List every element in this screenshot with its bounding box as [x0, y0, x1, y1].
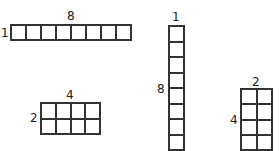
- array-8x1-row-label: 8: [157, 83, 165, 95]
- unit-square: [26, 25, 41, 40]
- unit-square: [169, 119, 184, 135]
- unit-square: [257, 89, 273, 104]
- unit-square: [241, 120, 257, 135]
- unit-square: [169, 26, 184, 42]
- unit-square: [116, 25, 131, 40]
- unit-square: [71, 103, 86, 119]
- unit-square: [71, 119, 86, 135]
- unit-square: [241, 89, 257, 104]
- array-2x4-col-label: 4: [66, 89, 74, 101]
- array-2x4-row-label: 2: [30, 112, 38, 124]
- unit-square: [56, 103, 71, 119]
- unit-square: [41, 119, 56, 135]
- unit-square: [11, 25, 26, 40]
- unit-square: [41, 103, 56, 119]
- unit-square: [56, 119, 71, 135]
- array-1x8-col-label: 8: [67, 10, 75, 22]
- unit-square: [241, 104, 257, 119]
- array-8x1: [168, 25, 185, 151]
- unit-square: [169, 104, 184, 120]
- unit-square: [169, 73, 184, 89]
- unit-square: [56, 25, 71, 40]
- array-8x1-col-label: 1: [172, 11, 180, 23]
- array-4x2-row-label: 4: [230, 114, 238, 126]
- unit-square: [257, 104, 273, 119]
- unit-square: [101, 25, 116, 40]
- unit-square: [169, 135, 184, 151]
- array-1x8: [10, 24, 132, 41]
- unit-square: [241, 135, 257, 150]
- unit-square: [257, 135, 273, 150]
- unit-square: [169, 88, 184, 104]
- unit-square: [86, 25, 101, 40]
- unit-square: [169, 42, 184, 58]
- array-4x2-col-label: 2: [252, 76, 260, 88]
- unit-square: [71, 25, 86, 40]
- unit-square: [85, 119, 100, 135]
- unit-square: [85, 103, 100, 119]
- array-2x4: [40, 102, 101, 135]
- unit-square: [257, 120, 273, 135]
- array-4x2: [240, 88, 273, 151]
- array-1x8-row-label: 1: [1, 27, 9, 39]
- unit-square: [41, 25, 56, 40]
- unit-square: [169, 57, 184, 73]
